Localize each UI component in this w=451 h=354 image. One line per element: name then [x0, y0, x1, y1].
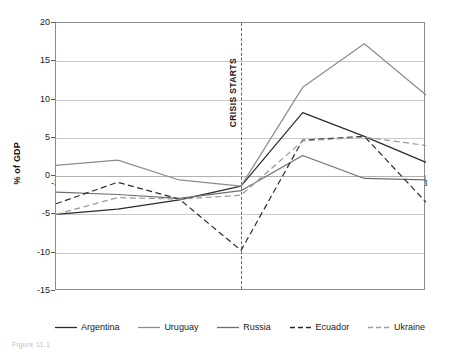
y-axis-tick-label: 20 [24, 17, 50, 27]
plot-area [55, 22, 425, 290]
y-axis-tick-label: 15 [24, 55, 50, 65]
series-lines [56, 23, 426, 291]
legend-item-ukraine[interactable]: Ukraine [368, 322, 425, 332]
figure-caption: Figure 11.1 [12, 341, 50, 348]
y-axis-tick-mark [51, 290, 55, 291]
legend-label: Ukraine [394, 322, 425, 332]
legend-label: Argentina [81, 322, 120, 332]
legend-swatch-icon [368, 323, 390, 332]
legend-label: Russia [243, 322, 271, 332]
series-line-russia [56, 155, 426, 198]
y-axis-tick-label: 10 [24, 94, 50, 104]
legend-swatch-icon [55, 323, 77, 332]
legend-item-ecuador[interactable]: Ecuador [290, 322, 350, 332]
legend-item-argentina[interactable]: Argentina [55, 322, 120, 332]
legend-label: Uruguay [164, 322, 198, 332]
legend: ArgentinaUruguayRussiaEcuadorUkraine [55, 318, 425, 336]
y-axis-tick-label: 0 [24, 170, 50, 180]
legend-item-russia[interactable]: Russia [217, 322, 271, 332]
y-axis-tick-label: 5 [24, 132, 50, 142]
legend-label: Ecuador [316, 322, 350, 332]
legend-item-uruguay[interactable]: Uruguay [138, 322, 198, 332]
series-line-ecuador [56, 136, 426, 250]
series-line-ukraine [56, 137, 426, 214]
legend-swatch-icon [290, 323, 312, 332]
legend-swatch-icon [217, 323, 239, 332]
series-line-uruguay [56, 44, 426, 186]
y-axis-tick-label: -15 [24, 285, 50, 295]
y-axis-tick-label: -5 [24, 208, 50, 218]
y-axis-title-label: % of GDP [12, 142, 22, 185]
legend-swatch-icon [138, 323, 160, 332]
crisis-start-label: CRISIS STARTS [228, 58, 238, 129]
chart-figure: % of GDP 20151050-5-10-15-3-2-10123 CRIS… [0, 0, 451, 354]
y-axis-tick-label: -10 [24, 247, 50, 257]
crisis-start-text: CRISIS STARTS [228, 58, 238, 127]
